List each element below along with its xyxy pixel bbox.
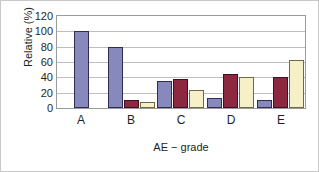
bar-chart-figure: Relative (%) 120100806040200 ABCDE AE − … — [0, 0, 319, 172]
bar — [189, 90, 204, 108]
y-axis-tick-labels: 120100806040200 — [19, 15, 53, 109]
x-tick-label: C — [156, 111, 206, 129]
y-tick-label: 0 — [19, 103, 53, 113]
bar — [207, 98, 222, 108]
x-tick-label: B — [106, 111, 156, 129]
bar — [223, 74, 238, 109]
bar-group — [57, 16, 107, 108]
y-tick-label: 80 — [19, 42, 53, 52]
bar — [74, 31, 89, 108]
x-tick-label: D — [206, 111, 256, 129]
bar — [273, 77, 288, 108]
y-tick-label: 40 — [19, 72, 53, 82]
x-tick-label: E — [256, 111, 306, 129]
y-tick-label: 120 — [19, 11, 53, 21]
y-tick-label: 60 — [19, 57, 53, 67]
bar — [140, 102, 155, 108]
bar — [289, 60, 304, 108]
bar — [257, 100, 272, 108]
bar-group — [107, 16, 157, 108]
x-axis-title: AE − grade — [56, 141, 306, 153]
x-axis-tick-labels: ABCDE — [56, 111, 306, 129]
bar — [239, 77, 254, 108]
plot-area — [56, 15, 306, 109]
y-tick-label: 100 — [19, 26, 53, 36]
bar — [173, 79, 188, 108]
bar-group — [156, 16, 206, 108]
bar — [124, 100, 139, 108]
bar-groups — [57, 16, 305, 108]
bar — [108, 47, 123, 108]
bar-group — [255, 16, 305, 108]
x-tick-label: A — [56, 111, 106, 129]
bar-group — [206, 16, 256, 108]
bar — [157, 81, 172, 108]
y-tick-label: 20 — [19, 88, 53, 98]
